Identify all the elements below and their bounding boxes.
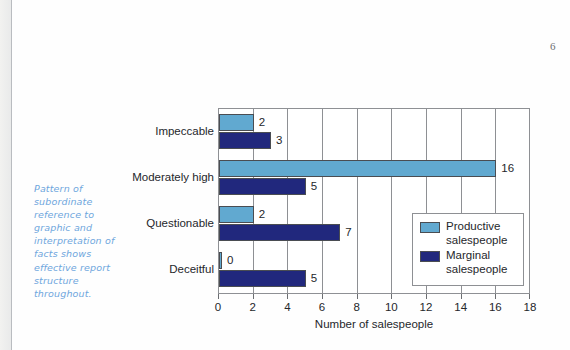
axis-tick bbox=[253, 294, 254, 299]
axis-tick bbox=[391, 294, 392, 299]
x-tick-label: 18 bbox=[524, 301, 537, 313]
axis-tick bbox=[322, 294, 323, 299]
bar-marginal bbox=[219, 270, 306, 287]
bar-value-label: 16 bbox=[501, 160, 514, 177]
x-tick-label: 4 bbox=[284, 301, 290, 313]
category-label: Questionable bbox=[94, 217, 219, 229]
axis-tick bbox=[218, 294, 219, 299]
document-page: 6 Pattern of subordinate reference to gr… bbox=[11, 0, 570, 350]
x-tick-label: 16 bbox=[489, 301, 502, 313]
x-tick-label: 8 bbox=[353, 301, 359, 313]
bar-productive bbox=[219, 206, 254, 223]
bar-value-label: 5 bbox=[311, 178, 317, 195]
axis-tick bbox=[287, 294, 288, 299]
bar-productive bbox=[219, 114, 254, 131]
bar-value-label: 2 bbox=[259, 206, 265, 223]
legend-swatch-productive-icon bbox=[420, 222, 440, 233]
legend-item: Productive salespeople bbox=[420, 220, 516, 247]
chart-legend: Productive salespeople Marginal salespeo… bbox=[412, 213, 524, 286]
bar-marginal bbox=[219, 178, 306, 195]
axis-tick bbox=[426, 294, 427, 299]
bar-value-label: 7 bbox=[345, 224, 351, 241]
bar-productive bbox=[219, 252, 222, 269]
axis-tick bbox=[357, 294, 358, 299]
legend-label-productive: Productive salespeople bbox=[446, 220, 516, 247]
category-label: Impeccable bbox=[94, 125, 219, 137]
bar-marginal bbox=[219, 132, 271, 149]
bar-value-label: 5 bbox=[311, 270, 317, 287]
margin-annotation-note: Pattern of subordinate reference to grap… bbox=[34, 182, 130, 300]
bar-value-label: 0 bbox=[227, 252, 233, 269]
legend-label-marginal: Marginal salespeople bbox=[446, 249, 516, 276]
legend-item: Marginal salespeople bbox=[420, 249, 516, 276]
x-tick-label: 2 bbox=[249, 301, 255, 313]
x-tick-label: 6 bbox=[319, 301, 325, 313]
legend-swatch-marginal-icon bbox=[420, 251, 440, 262]
x-tick-label: 10 bbox=[385, 301, 398, 313]
page-number: 6 bbox=[550, 40, 556, 52]
x-tick-label: 0 bbox=[215, 301, 221, 313]
chart-row: Impeccable23 bbox=[219, 109, 529, 155]
axis-tick bbox=[461, 294, 462, 299]
page-edge-shadow bbox=[0, 0, 11, 350]
category-label: Moderately high bbox=[94, 171, 219, 183]
chart-row: Moderately high165 bbox=[219, 155, 529, 201]
bar-marginal bbox=[219, 224, 340, 241]
x-axis-label: Number of salespeople bbox=[218, 318, 530, 330]
bar-value-label: 3 bbox=[276, 132, 282, 149]
x-tick-label: 14 bbox=[454, 301, 467, 313]
axis-tick bbox=[529, 294, 530, 299]
bar-productive bbox=[219, 160, 496, 177]
bar-chart: Impeccable23Moderately high165Questionab… bbox=[130, 108, 560, 333]
category-label: Deceitful bbox=[94, 263, 219, 275]
axis-tick bbox=[495, 294, 496, 299]
x-tick-label: 12 bbox=[420, 301, 433, 313]
bar-value-label: 2 bbox=[259, 114, 265, 131]
